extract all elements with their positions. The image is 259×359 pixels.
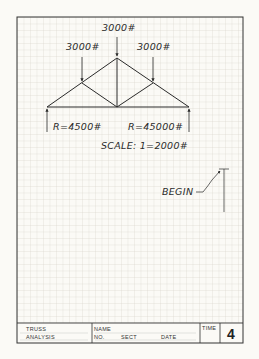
date-label: DATE bbox=[161, 334, 176, 340]
title-line-1: TRUSS bbox=[26, 326, 46, 332]
reaction-label-left: R=4500# bbox=[53, 121, 102, 132]
time-label: TIME bbox=[202, 325, 216, 331]
load-label-center: 3000# bbox=[102, 22, 136, 33]
name-label: NAME bbox=[94, 326, 111, 332]
load-label-left: 3000# bbox=[66, 41, 100, 52]
begin-label: BEGIN bbox=[162, 186, 193, 197]
sheet-number: 4 bbox=[227, 326, 235, 342]
title-line-2: ANALYSIS bbox=[26, 334, 55, 340]
worksheet-canvas bbox=[0, 0, 259, 359]
sect-label: SECT bbox=[121, 334, 137, 340]
load-label-right: 3000# bbox=[137, 41, 171, 52]
grid-area bbox=[17, 17, 243, 323]
no-label: NO. bbox=[94, 334, 105, 340]
reaction-label-right: R=45000# bbox=[128, 121, 183, 132]
scale-label: SCALE: 1=2000# bbox=[101, 140, 188, 151]
